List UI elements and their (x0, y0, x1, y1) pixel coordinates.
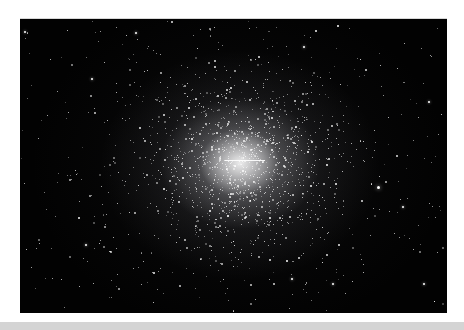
star-cluster-photo (20, 18, 447, 313)
bright-star (85, 244, 87, 246)
bright-star (91, 78, 93, 80)
bright-star (332, 283, 334, 285)
bright-star (135, 32, 137, 34)
bright-star (377, 186, 380, 189)
bright-star (423, 283, 425, 285)
bright-star (402, 206, 404, 208)
bright-star (428, 101, 430, 103)
bright-star (291, 278, 293, 280)
bright-star (24, 31, 26, 33)
cluster-core-streak (225, 160, 265, 161)
starfield (20, 19, 447, 313)
bottom-bar (0, 322, 464, 330)
bright-star (303, 46, 305, 48)
